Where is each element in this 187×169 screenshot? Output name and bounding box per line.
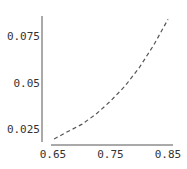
y-tick-labels: 0.0250.050.075 <box>7 30 40 136</box>
x-tick-label: 0.85 <box>155 148 182 161</box>
dashed-curve <box>54 19 168 139</box>
y-tick-label: 0.05 <box>14 77 41 90</box>
x-tick-label: 0.65 <box>40 148 67 161</box>
x-tick-label: 0.75 <box>97 148 124 161</box>
y-tick-label: 0.075 <box>7 30 40 43</box>
x-tick-labels: 0.650.750.85 <box>40 148 182 161</box>
y-tick-label: 0.025 <box>7 123 40 136</box>
line-chart: 0.0250.050.075 0.650.750.85 <box>0 0 187 169</box>
